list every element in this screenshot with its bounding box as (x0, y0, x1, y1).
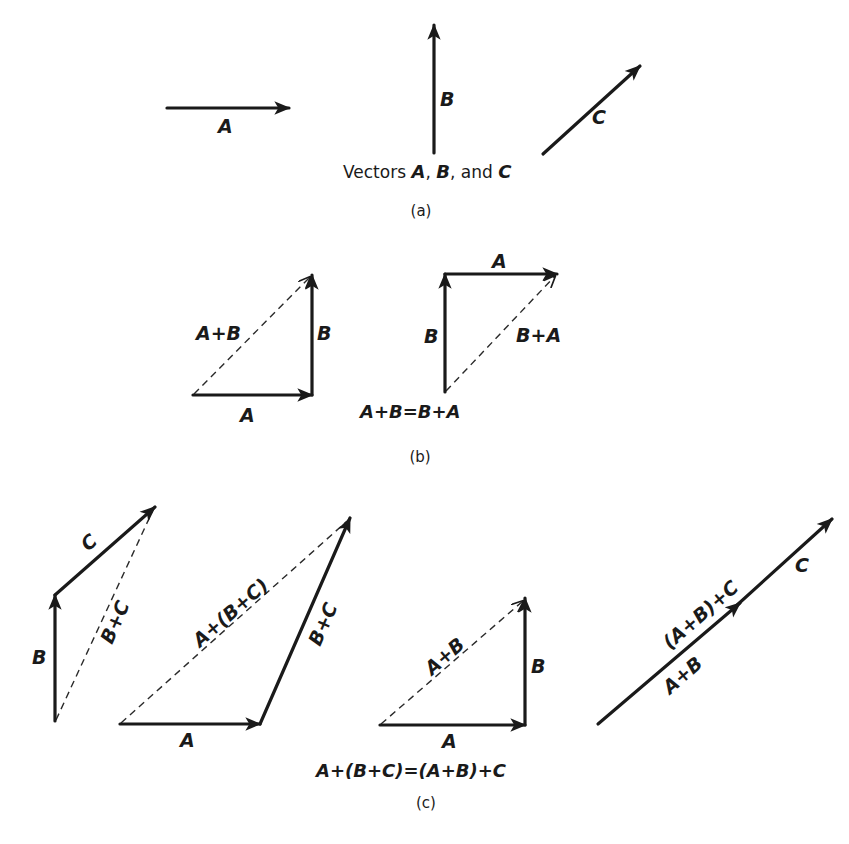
panel-a-caption: Vectors A, B, and C (343, 161, 512, 182)
vector-b-label: B (440, 88, 454, 110)
b-right-b-label: B (424, 325, 438, 347)
vector-a-label: A (216, 115, 233, 137)
c-equation: A+(B+C)=(A+B)+C (314, 760, 507, 781)
c4-vector-c (736, 519, 832, 606)
panel-a-label: (a) (411, 202, 432, 220)
c1-vector-c (55, 507, 155, 595)
vector-c-label: C (592, 106, 606, 128)
c1-b-label: B (32, 646, 46, 668)
c2-a-label: A (178, 729, 195, 751)
panel-b: A+B B A A B B+A A+B=B+A (b) (193, 250, 561, 466)
c4-c-label: C (795, 554, 809, 576)
c3-a-label: A (440, 730, 457, 752)
b-left-a-label: A (238, 404, 255, 426)
c1-c-label: C (76, 529, 101, 555)
c2-vector-bc (260, 518, 350, 724)
c4-ab-label: A+B (657, 652, 707, 700)
c4-sum-label: (A+B)+C (658, 576, 742, 653)
c3-b-label: B (531, 655, 545, 677)
b-equation: A+B=B+A (358, 401, 461, 422)
c2-sum-label: A+(B+C) (187, 574, 273, 652)
b-left-sum-label: A+B (194, 322, 241, 344)
panel-c: B C B+C A B+C A+(B+C) A B A+B A+B (A+B)+… (32, 507, 832, 812)
panel-c-label: (c) (416, 794, 436, 812)
b-right-sum-label: B+A (516, 324, 561, 346)
c2-bc-label: B+C (304, 599, 342, 649)
vector-addition-figure: A B C Vectors A, B, and C (a) A+B B A A … (0, 0, 849, 844)
panel-a: A B C Vectors A, B, and C (a) (167, 25, 640, 220)
c4-vector-ab (598, 603, 740, 724)
c3-sum-label: A+B (419, 633, 469, 681)
b-right-a-label: A (490, 250, 507, 272)
panel-b-label: (b) (409, 448, 430, 466)
b-left-b-label: B (317, 322, 331, 344)
c1-sum-dashed (56, 510, 153, 720)
